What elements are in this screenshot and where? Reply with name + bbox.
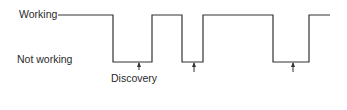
- discovery-arrow-3: [291, 62, 295, 72]
- not-working-label: Not working: [17, 54, 72, 65]
- working-label: Working: [19, 9, 57, 20]
- working-state-signal-line: [58, 15, 330, 62]
- discovery-arrow-1: [137, 62, 141, 70]
- discovery-label: Discovery: [111, 73, 157, 84]
- discovery-arrow-2: [192, 62, 196, 72]
